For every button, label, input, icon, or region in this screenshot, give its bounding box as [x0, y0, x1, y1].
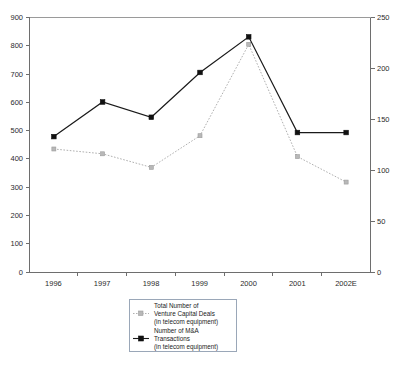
x-tick-label-1997: 1997	[94, 279, 111, 288]
legend-label-vc-deals-line2: Venture Capital Deals	[154, 310, 215, 318]
data-point-ma-transactions-2002E	[344, 130, 349, 135]
right-tick-label-5: 250	[377, 13, 390, 22]
right-axis-ticks: 0 50 100 150 200 250	[371, 13, 390, 277]
data-point-vc-deals-1999	[198, 134, 202, 138]
left-tick-label-9: 900	[10, 13, 23, 22]
right-tick-label-3: 150	[377, 115, 390, 124]
legend-marker-vc-deals	[139, 311, 144, 316]
data-point-vc-deals-1997	[101, 152, 105, 156]
right-tick-label-0: 0	[377, 268, 381, 277]
left-tick-label-0: 0	[19, 268, 23, 277]
x-tick-label-1996: 1996	[45, 279, 62, 288]
left-tick-label-5: 500	[10, 126, 23, 135]
left-tick-label-4: 400	[10, 154, 23, 163]
data-point-ma-transactions-1999	[198, 70, 203, 75]
legend-label-vc-deals-line1: Total Number of	[154, 302, 199, 309]
line-chart: 0 100 200 300 400 500 600 700 800 900 0	[0, 0, 396, 367]
x-axis-ticks: 1996 1997 1998 1999 2000 2001 2002E	[45, 272, 357, 288]
legend-marker-ma-transactions	[139, 336, 144, 341]
legend: Total Number of Venture Capital Deals (i…	[130, 300, 237, 352]
data-point-ma-transactions-2000	[246, 35, 251, 40]
data-point-vc-deals-1996	[52, 147, 56, 151]
chart-container: 0 100 200 300 400 500 600 700 800 900 0	[0, 0, 396, 367]
series-line-ma-transactions	[54, 37, 346, 137]
legend-label-ma-line1: Number of M&A	[154, 327, 200, 334]
series-ma-transactions	[52, 35, 349, 139]
x-tick-label-2000: 2000	[240, 279, 257, 288]
left-axis-ticks: 0 100 200 300 400 500 600 700 800 900	[10, 13, 29, 277]
data-point-ma-transactions-1996	[52, 134, 57, 139]
x-tick-label-2002E: 2002E	[335, 279, 357, 288]
legend-label-ma-line3: (in telecom equipment)	[154, 343, 218, 351]
plot-frame	[30, 18, 371, 273]
left-tick-label-8: 800	[10, 41, 23, 50]
x-tick-label-2001: 2001	[289, 279, 306, 288]
series-layer	[52, 35, 349, 185]
legend-label-ma-line2: Transactions	[154, 335, 190, 342]
left-tick-label-6: 600	[10, 98, 23, 107]
data-point-ma-transactions-2001	[295, 130, 300, 135]
left-tick-label-3: 300	[10, 183, 23, 192]
data-point-vc-deals-2000	[247, 42, 251, 46]
series-vc-deals	[52, 42, 348, 184]
legend-label-vc-deals-line3: (in telecom equipment)	[154, 318, 218, 326]
data-point-vc-deals-1998	[149, 165, 153, 169]
right-tick-label-4: 200	[377, 64, 390, 73]
left-tick-label-7: 700	[10, 70, 23, 79]
series-line-vc-deals	[54, 44, 346, 182]
left-tick-label-2: 200	[10, 211, 23, 220]
right-tick-label-2: 100	[377, 166, 390, 175]
right-tick-label-1: 50	[377, 217, 385, 226]
data-point-vc-deals-2002E	[344, 180, 348, 184]
data-point-vc-deals-2001	[295, 155, 299, 159]
left-tick-label-1: 100	[10, 239, 23, 248]
data-point-ma-transactions-1998	[149, 115, 154, 120]
x-tick-label-1999: 1999	[191, 279, 208, 288]
data-point-ma-transactions-1997	[100, 100, 105, 105]
x-tick-label-1998: 1998	[143, 279, 160, 288]
